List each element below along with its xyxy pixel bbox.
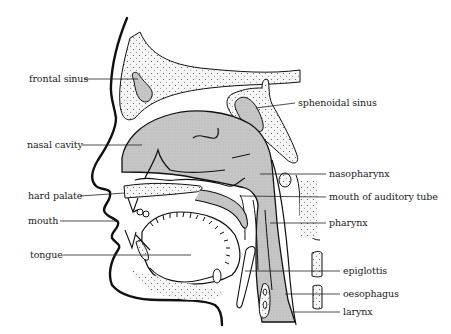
label-nasal-cavity: nasal cavity <box>27 140 83 150</box>
label-oesophagus: oesophagus <box>343 289 399 299</box>
label-frontal-sinus: frontal sinus <box>29 74 88 84</box>
label-sphenoidal-sinus: sphenoidal sinus <box>298 98 377 108</box>
label-mouth-of-auditory-tube: mouth of auditory tube <box>329 192 438 202</box>
vertebra-low <box>313 285 322 309</box>
sagittal-section-drawing <box>0 0 451 334</box>
hard-palate-shape <box>124 183 202 198</box>
label-mouth: mouth <box>28 216 58 226</box>
label-pharynx: pharynx <box>329 218 368 228</box>
label-larynx: larynx <box>343 307 373 317</box>
tongue-shape <box>142 212 240 284</box>
anatomy-diagram: frontal sinus nasal cavity hard palate m… <box>0 0 451 334</box>
label-nasopharynx: nasopharynx <box>329 169 390 179</box>
vertebra-mid <box>312 251 322 276</box>
label-tongue: tongue <box>30 250 63 260</box>
auditory-tube-opening <box>279 173 291 187</box>
label-epiglottis: epiglottis <box>343 266 387 276</box>
label-hard-palate: hard palate <box>28 191 82 201</box>
